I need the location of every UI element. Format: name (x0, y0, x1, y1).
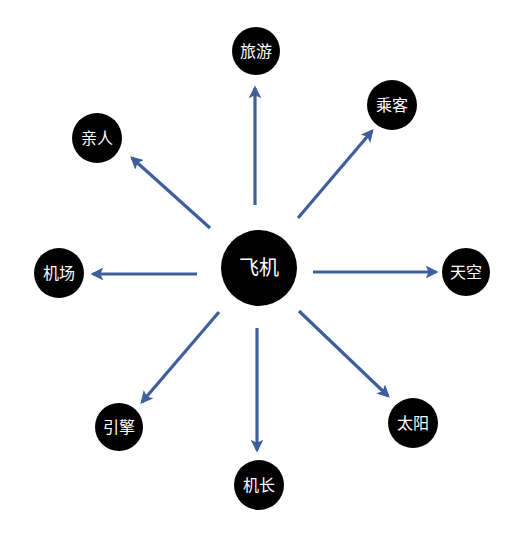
node-label: 引擎 (103, 418, 135, 437)
arrow-icon (299, 311, 388, 396)
node-label: 机场 (43, 264, 75, 283)
arrow-icon (132, 158, 210, 228)
arrow-to-passenger (298, 131, 372, 218)
node-label: 太阳 (397, 414, 429, 433)
arrow-to-family (132, 158, 210, 228)
node-airport: 机场 (34, 248, 84, 298)
node-label: 机长 (243, 476, 275, 495)
node-label: 亲人 (81, 129, 113, 148)
center-node-label: 飞机 (239, 256, 279, 280)
node-label: 旅游 (240, 42, 272, 61)
node-label: 乘客 (376, 96, 408, 115)
arrow-icon (142, 312, 219, 402)
node-engine: 引擎 (95, 403, 143, 451)
arrow-to-engine (142, 312, 219, 402)
node-travel: 旅游 (232, 27, 280, 75)
arrow-icon (298, 131, 372, 218)
arrow-to-sun (299, 311, 388, 396)
node-label: 天空 (450, 263, 482, 282)
node-sun: 太阳 (388, 398, 438, 448)
node-passenger: 乘客 (367, 80, 417, 130)
node-family: 亲人 (72, 113, 122, 163)
center-node: 飞机 (221, 230, 297, 306)
node-sky: 天空 (442, 248, 490, 296)
mind-map-diagram: 飞机 旅游乘客天空太阳机长引擎机场亲人 (0, 0, 518, 539)
node-captain: 机长 (234, 460, 284, 510)
